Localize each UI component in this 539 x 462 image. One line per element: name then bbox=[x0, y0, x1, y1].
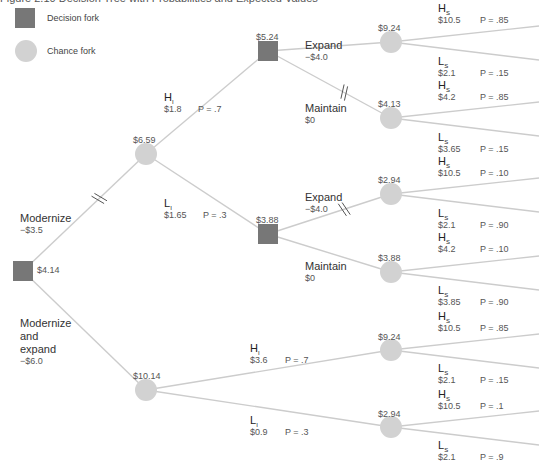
outcome-payoff: $10.5 bbox=[438, 16, 461, 25]
outcome-probability: P = .85 bbox=[480, 16, 509, 25]
state-letter: H bbox=[438, 388, 446, 400]
outcome-payoff: $3.65 bbox=[438, 145, 461, 154]
branch-lo-me bbox=[146, 390, 391, 427]
pruned-branch-mark bbox=[92, 196, 105, 203]
terminal-branch bbox=[391, 256, 539, 272]
branch-lo-m-payoff: $1.65 bbox=[164, 211, 187, 220]
pruned-branch-mark bbox=[338, 204, 346, 216]
decision-tree bbox=[0, 0, 539, 462]
terminal-branch bbox=[391, 118, 539, 136]
branch-lo-m bbox=[146, 154, 268, 234]
outcome-probability: P = .9 bbox=[480, 453, 504, 462]
branch-hi-expand-cost: −$4.0 bbox=[305, 53, 328, 62]
branch-lo-me-prob: P = .3 bbox=[285, 428, 309, 437]
branch-hi-me-prob: P = .7 bbox=[285, 356, 309, 365]
branch-lo-maintain-label: Maintain bbox=[305, 261, 347, 273]
chance-node bbox=[380, 31, 402, 53]
outcome-payoff: $3.85 bbox=[438, 298, 461, 307]
chance-node bbox=[380, 261, 402, 283]
terminal-branch bbox=[391, 102, 539, 118]
outcome-probability: P = .10 bbox=[480, 169, 509, 178]
outcome-probability: P = .15 bbox=[480, 145, 509, 154]
decision-node bbox=[13, 261, 33, 281]
branch-lo-m-prob: P = .3 bbox=[203, 211, 227, 220]
leaf-chance-value-3: $2.94 bbox=[378, 176, 401, 185]
branch-hi-maintain-cost: $0 bbox=[305, 116, 315, 125]
pruned-branch-mark bbox=[342, 203, 350, 215]
terminal-branch bbox=[391, 26, 539, 42]
branch-lo-me-payoff: $0.9 bbox=[250, 428, 268, 437]
outcome-probability: P = .10 bbox=[480, 245, 509, 254]
outcome-payoff: $4.2 bbox=[438, 93, 456, 102]
outcome-payoff: $10.5 bbox=[438, 324, 461, 333]
state-letter: H bbox=[164, 91, 172, 103]
chance-me-value: $10.14 bbox=[133, 372, 161, 381]
decision-low-value: $3.88 bbox=[256, 216, 279, 225]
state-letter: H bbox=[438, 155, 446, 167]
outcome-payoff: $2.1 bbox=[438, 221, 456, 230]
leaf-chance-value-5: $9.24 bbox=[378, 333, 401, 342]
leaf-chance-value-6: $2.94 bbox=[378, 410, 401, 419]
terminal-branch bbox=[391, 411, 539, 427]
branch-hi-me bbox=[146, 350, 391, 390]
branch-hi-expand-label: Expand bbox=[305, 40, 342, 52]
branch-modernize-cost: −$3.5 bbox=[20, 226, 43, 235]
branch-me-label-3: expand bbox=[20, 344, 56, 356]
leaf-chance-value-1: $9.24 bbox=[378, 24, 401, 33]
outcome-probability: P = .15 bbox=[480, 69, 509, 78]
terminal-branch bbox=[391, 42, 539, 60]
chance-node bbox=[380, 183, 402, 205]
outcome-payoff: $2.1 bbox=[438, 453, 456, 462]
outcome-payoff: $2.1 bbox=[438, 69, 456, 78]
outcome-probability: P = .85 bbox=[480, 93, 509, 102]
outcome-probability: P = .1 bbox=[480, 402, 504, 411]
terminal-branch bbox=[391, 427, 539, 445]
leaf-chance-value-2: $4.13 bbox=[378, 100, 401, 109]
outcome-probability: P = .90 bbox=[480, 221, 509, 230]
chance-node bbox=[135, 379, 157, 401]
outcome-payoff: $10.5 bbox=[438, 169, 461, 178]
branch-me-label-1: Modernize bbox=[20, 318, 71, 330]
branch-hi-maintain-label: Maintain bbox=[305, 103, 347, 115]
state-letter: H bbox=[438, 79, 446, 91]
chance-node bbox=[380, 107, 402, 129]
chance-node bbox=[135, 143, 157, 165]
outcome-probability: P = .90 bbox=[480, 298, 509, 307]
state-letter: H bbox=[438, 310, 446, 322]
branch-lo-expand-cost: −$4.0 bbox=[305, 205, 328, 214]
branch-me-cost: −$6.0 bbox=[20, 357, 43, 366]
terminal-branch bbox=[391, 350, 539, 368]
terminal-branch bbox=[391, 334, 539, 350]
outcome-probability: P = .15 bbox=[480, 376, 509, 385]
branch-hi-me-payoff: $3.6 bbox=[250, 356, 268, 365]
chance-modernize-value: $6.59 bbox=[133, 136, 156, 145]
decision-node bbox=[258, 224, 278, 244]
decision-high-value: $5.24 bbox=[256, 33, 279, 42]
branch-hi-m-payoff: $1.8 bbox=[164, 105, 182, 114]
decision-node bbox=[258, 41, 278, 61]
outcome-payoff: $2.1 bbox=[438, 376, 456, 385]
branch-hi-m-prob: P = .7 bbox=[198, 105, 222, 114]
branch-me-label-2: and bbox=[20, 331, 38, 343]
outcome-probability: P = .85 bbox=[480, 324, 509, 333]
pruned-branch-mark bbox=[94, 193, 107, 200]
branch-modernize-expand bbox=[23, 271, 146, 390]
branch-lo-expand-label: Expand bbox=[305, 192, 342, 204]
branch-lo-maintain-cost: $0 bbox=[305, 274, 315, 283]
state-letter: H bbox=[438, 231, 446, 243]
root-value: $4.14 bbox=[37, 266, 60, 275]
outcome-payoff: $10.5 bbox=[438, 402, 461, 411]
state-letter: H bbox=[438, 2, 446, 14]
state-letter: H bbox=[250, 342, 258, 354]
leaf-chance-value-4: $3.88 bbox=[378, 254, 401, 263]
outcome-payoff: $4.2 bbox=[438, 245, 456, 254]
terminal-branch bbox=[391, 194, 539, 212]
terminal-branch bbox=[391, 272, 539, 290]
branch-modernize-label: Modernize bbox=[20, 213, 71, 225]
terminal-branch bbox=[391, 178, 539, 194]
